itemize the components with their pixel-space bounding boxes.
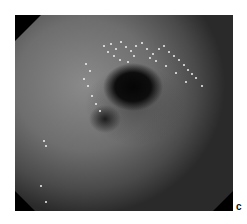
- specular-highlight: [195, 77, 197, 79]
- specular-highlight: [168, 51, 170, 53]
- specular-highlight: [130, 50, 132, 52]
- specular-highlight: [127, 61, 129, 63]
- specular-highlight: [158, 48, 160, 50]
- specular-highlight: [113, 55, 115, 57]
- corner-mask-top-left: [15, 15, 41, 41]
- endoscopy-image: [15, 15, 233, 211]
- corner-mask-bottom-left: [15, 191, 35, 211]
- panel-label: c: [236, 201, 242, 212]
- specular-highlight: [141, 42, 143, 44]
- specular-highlight: [43, 140, 45, 142]
- specular-highlight: [152, 53, 154, 55]
- specular-highlight: [83, 78, 85, 80]
- specular-highlight: [87, 85, 89, 87]
- specular-highlight: [103, 45, 105, 47]
- specular-highlight: [125, 46, 127, 48]
- corner-mask-bottom-right: [213, 191, 233, 211]
- specular-highlight: [201, 85, 203, 87]
- specular-highlight: [175, 72, 177, 74]
- specular-highlight: [165, 65, 167, 67]
- specular-highlight: [120, 41, 122, 43]
- specular-highlight: [91, 95, 93, 97]
- specular-highlight: [85, 63, 87, 65]
- specular-highlight: [178, 59, 180, 61]
- specular-highlight: [119, 59, 121, 61]
- specular-highlight: [185, 81, 187, 83]
- specular-highlight: [163, 45, 165, 47]
- specular-highlight: [183, 64, 185, 66]
- specular-highlight: [191, 73, 193, 75]
- specular-highlight: [45, 145, 47, 147]
- specular-highlight: [45, 201, 47, 203]
- specular-highlight: [146, 48, 148, 50]
- specular-highlight: [155, 60, 157, 62]
- specular-highlight: [133, 55, 135, 57]
- specular-highlight: [107, 51, 109, 53]
- specular-highlight: [89, 70, 91, 72]
- specular-highlight: [149, 57, 151, 59]
- specular-highlight: [115, 48, 117, 50]
- specular-highlight: [110, 43, 112, 45]
- specular-highlight: [40, 185, 42, 187]
- specular-highlight: [95, 103, 97, 105]
- endoscopy-scene: [15, 15, 233, 211]
- specular-highlight: [173, 55, 175, 57]
- specular-highlight: [187, 69, 189, 71]
- specular-highlight: [135, 45, 137, 47]
- specular-highlight: [99, 110, 101, 112]
